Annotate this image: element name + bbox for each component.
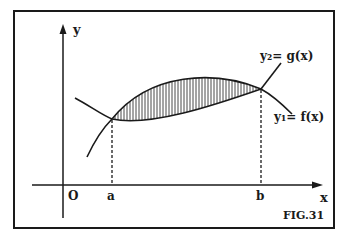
origin-label: O xyxy=(68,189,78,203)
point-a-label: a xyxy=(107,189,115,203)
figure-caption: FIG.31 xyxy=(283,209,324,222)
y-axis-arrow-icon xyxy=(60,24,67,34)
point-b-label: b xyxy=(256,189,264,203)
curve-g-label: y₂= g(x) xyxy=(259,49,313,63)
shaded-region xyxy=(100,60,270,140)
figure-canvas: y x O a b y₂= g(x) y₁= f(x) FIG.31 xyxy=(0,0,344,240)
x-axis-arrow-icon xyxy=(312,182,323,189)
y-axis-label: y xyxy=(72,22,81,37)
curve-f-label: y₁= f(x) xyxy=(273,110,324,124)
x-axis-label: x xyxy=(320,190,328,205)
curve-g-extension xyxy=(261,63,281,89)
